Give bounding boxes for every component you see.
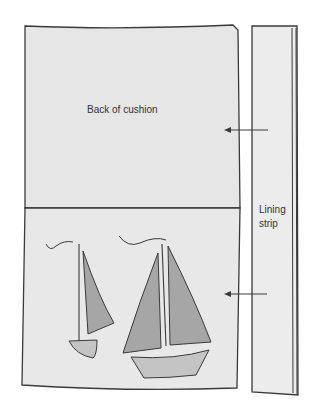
back-of-cushion-label: Back of cushion (87, 103, 158, 116)
back-of-cushion-panel (25, 25, 240, 208)
front-panel (22, 208, 240, 389)
lining-strip-label-line2: strip (259, 217, 278, 230)
lining-strip-label-line1: Lining (259, 203, 286, 216)
